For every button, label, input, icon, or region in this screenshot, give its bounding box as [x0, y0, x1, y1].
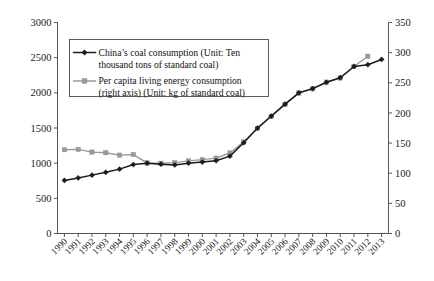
left-axis-tick-label: 3000 [31, 17, 52, 28]
right-axis-tick-label: 50 [395, 198, 406, 209]
left-axis-tick-label: 500 [36, 193, 52, 204]
legend-label-line2: (right axis) (Unit: kg of standard coal) [99, 87, 246, 99]
legend-swatch-marker [82, 79, 87, 84]
right-axis-tick-label: 0 [395, 228, 400, 239]
chart-container: 050010001500200025003000 050100150200250… [0, 0, 434, 281]
data-point-marker [90, 150, 94, 154]
left-axis-tick-label: 2500 [31, 52, 52, 63]
left-axis-tick-label: 1500 [31, 123, 52, 134]
legend-label-line1: China’s coal consumption (Unit: Ten [99, 47, 241, 59]
legend-label-line1: Per capita living energy consumption [99, 75, 242, 86]
legend-label-line2: thousand tons of standard coal) [99, 59, 219, 71]
right-axis-tick-label: 350 [395, 17, 411, 28]
left-axis-tick-label: 1000 [31, 158, 52, 169]
right-axis-tick-label: 250 [395, 77, 411, 88]
right-axis-tick-label: 100 [395, 168, 411, 179]
chart-legend: China’s coal consumption (Unit: Tenthous… [70, 40, 269, 100]
line-chart: 050010001500200025003000 050100150200250… [0, 0, 434, 281]
right-axis-tick-label: 150 [395, 138, 411, 149]
data-point-marker [76, 147, 80, 151]
right-axis-tick-label: 200 [395, 108, 411, 119]
right-axis-tick-label: 300 [395, 47, 411, 58]
left-axis-tick-label: 0 [46, 228, 51, 239]
data-point-marker [104, 151, 108, 155]
data-point-marker [131, 152, 135, 156]
left-axis-tick-label: 2000 [31, 87, 52, 98]
data-point-marker [117, 153, 121, 157]
data-point-marker [62, 148, 66, 152]
data-point-marker [366, 54, 370, 58]
